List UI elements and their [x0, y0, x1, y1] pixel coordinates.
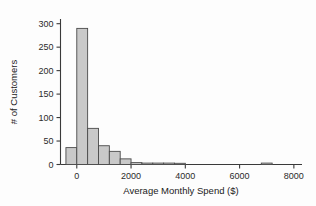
y-tick-label: 50	[43, 136, 53, 146]
x-axis-title: Average Monthly Spend ($)	[123, 185, 238, 196]
histogram-bar	[142, 163, 153, 164]
histogram-bar	[88, 128, 99, 164]
x-tick-label: 0	[74, 171, 79, 181]
histogram-bar	[120, 159, 131, 165]
histogram-bar	[98, 146, 109, 165]
histogram-bar	[153, 163, 164, 164]
x-tick-label: 6000	[230, 171, 250, 181]
histogram-bar	[66, 148, 77, 165]
y-axis-title: # of Customers	[8, 60, 19, 125]
y-tick-label: 250	[38, 42, 53, 52]
histogram-figure: 050100150200250300 02000400060008000 Ave…	[0, 0, 316, 206]
y-tick-label: 150	[38, 89, 53, 99]
x-tick-label: 2000	[121, 171, 141, 181]
histogram-bar	[131, 163, 142, 165]
chart-background	[0, 0, 316, 206]
y-tick-label: 100	[38, 113, 53, 123]
histogram-bar	[164, 163, 175, 164]
histogram-bar	[174, 163, 185, 164]
histogram-bar	[261, 163, 272, 164]
chart-canvas: 050100150200250300 02000400060008000 Ave…	[0, 0, 316, 206]
histogram-bar	[77, 28, 88, 164]
y-tick-label: 300	[38, 19, 53, 29]
y-tick-label: 200	[38, 66, 53, 76]
x-tick-label: 4000	[175, 171, 195, 181]
histogram-bar	[109, 151, 120, 164]
y-tick-label: 0	[48, 160, 53, 170]
x-tick-label: 8000	[284, 171, 304, 181]
